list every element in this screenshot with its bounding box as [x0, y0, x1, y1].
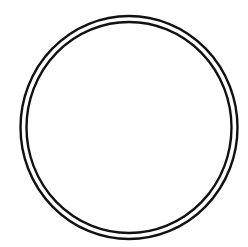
background [0, 0, 248, 247]
double-circle-icon [0, 0, 248, 247]
figure-canvas [0, 0, 248, 247]
